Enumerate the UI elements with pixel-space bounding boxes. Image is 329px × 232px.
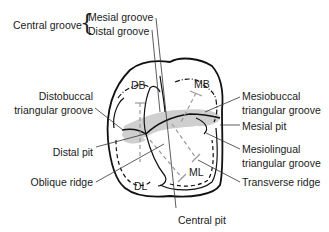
mesial-pit-label: Mesial pit: [242, 120, 286, 132]
cusp-label-dl: DL: [134, 180, 147, 192]
cusp-label-db: DB: [131, 79, 146, 91]
tooth-diagram: [0, 0, 329, 232]
dl-cusp-outline: [116, 140, 150, 186]
cusp-label-ml: ML: [189, 166, 204, 178]
distobuccal-label-1: Distobuccal: [39, 90, 93, 102]
mesiobuccal-label-2: triangular groove: [242, 104, 321, 116]
ml-cusp-outline: [170, 140, 213, 186]
distobuccal-label-2: triangular groove: [14, 104, 93, 116]
cusp-label-mb: MB: [194, 78, 210, 90]
distal-groove-label: Distal groove: [88, 25, 149, 37]
transverse-ridge-label: Transverse ridge: [242, 176, 320, 188]
mesiolingual-label-2: triangular groove: [242, 157, 321, 169]
oblique-groove: [146, 134, 166, 186]
mesiobuccal-label-1: Mesiobuccal: [242, 90, 300, 102]
central-pit-label: Central pit: [178, 214, 226, 226]
central-groove-label: Central groove: [13, 19, 82, 31]
oblique-ridge-label: Oblique ridge: [31, 176, 93, 188]
distal-pit-label: Distal pit: [53, 146, 93, 158]
mesial-groove-label: Mesial groove: [88, 11, 153, 23]
mesiolingual-label-1: Mesiolingual: [242, 143, 300, 155]
